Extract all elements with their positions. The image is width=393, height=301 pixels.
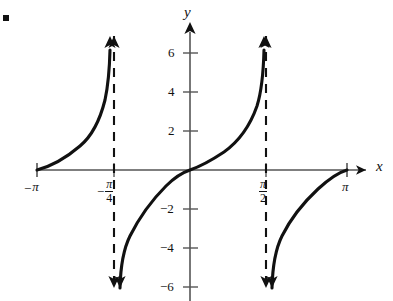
x-tick-label-minus-pi-over-4: −π4 (97, 178, 113, 204)
curve-middle-branch (114, 36, 269, 288)
fraction-numerator: π (105, 178, 113, 192)
fraction: π2 (259, 178, 267, 204)
fraction-denominator: 2 (259, 192, 267, 205)
coordinate-plot (0, 0, 393, 301)
curve-right-branch (266, 170, 347, 288)
fraction: π4 (105, 178, 113, 204)
pi-glyph: π (342, 179, 349, 194)
x-tick-label-minus-pi: −π (24, 180, 39, 195)
y-tick-label-4: 4 (168, 85, 175, 98)
y-tick-label-minus-4: −4 (160, 241, 174, 254)
y-tick-label-6: 6 (168, 46, 175, 59)
x-tick-label-pi-over-2: π2 (259, 178, 267, 204)
fraction-numerator: π (259, 178, 267, 192)
y-axis (183, 22, 198, 301)
y-tick-label-2: 2 (168, 124, 175, 137)
pi-glyph: π (32, 179, 39, 194)
fraction-denominator: 4 (105, 192, 113, 205)
x-tick-label-pi: π (342, 180, 349, 193)
graph-figure: y x −π −π4 π2 π 6 4 2 −2 −4 −6 (0, 0, 393, 301)
x-axis-label: x (376, 159, 383, 174)
y-tick-label-minus-2: −2 (160, 202, 174, 215)
minus-sign: − (97, 185, 105, 198)
y-axis-label: y (184, 5, 191, 20)
curve-left-branch (37, 36, 116, 170)
y-tick-label-minus-6: −6 (160, 280, 174, 293)
